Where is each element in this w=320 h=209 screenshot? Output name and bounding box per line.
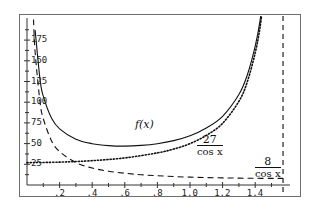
- label-27-over-cos: 27 cos x: [197, 134, 223, 157]
- y-tick-label: 100: [31, 96, 47, 106]
- x-tick-label: 1.2: [214, 188, 230, 198]
- label-8-den: cos x: [255, 168, 281, 179]
- series-dotted: [27, 0, 263, 163]
- y-tick-label: 150: [31, 55, 47, 65]
- y-tick-label: 175: [31, 34, 47, 44]
- label-8-over-cos: 8 cos x: [255, 156, 281, 179]
- label-f: f(x): [135, 119, 154, 130]
- x-tick-label: 1.4: [247, 188, 263, 198]
- x-tick-label: 1.0: [182, 188, 198, 198]
- label-8-num: 8: [255, 156, 281, 168]
- x-tick-label: .6: [119, 188, 130, 198]
- y-tick-label: 75: [31, 117, 42, 127]
- x-tick-label: .4: [87, 188, 98, 198]
- series-dashed: [34, 19, 283, 178]
- label-27-num: 27: [197, 134, 223, 146]
- y-tick-label: 50: [31, 138, 42, 148]
- x-tick-label: .8: [152, 188, 163, 198]
- y-tick-label: 25: [31, 158, 42, 168]
- x-tick-label: .2: [54, 188, 65, 198]
- label-27-den: cos x: [197, 146, 223, 157]
- y-tick-label: 125: [31, 76, 47, 86]
